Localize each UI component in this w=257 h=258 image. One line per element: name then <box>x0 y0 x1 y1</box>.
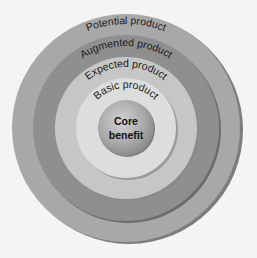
core-label-line1: Core <box>114 115 138 127</box>
core-label-line2: benefit <box>109 129 144 141</box>
concentric-rings: Potential product Augmented product Expe… <box>0 0 257 258</box>
product-levels-diagram: Potential product Augmented product Expe… <box>0 0 257 258</box>
